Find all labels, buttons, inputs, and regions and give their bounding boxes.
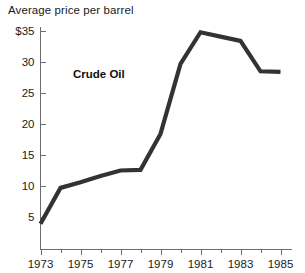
x-tick-label: 1979 [148, 258, 174, 270]
x-tick-label: 1983 [228, 258, 254, 270]
crude-oil-series-line [41, 32, 281, 224]
y-tick-label: 25 [22, 87, 35, 99]
plot-area: 51015202530$35 1973197519771979198119831… [0, 0, 305, 273]
series-annotation-crude-oil: Crude Oil [73, 68, 125, 80]
y-tick-label: $35 [15, 25, 34, 37]
x-tick-label: 1981 [188, 258, 214, 270]
crude-oil-line-chart: Average price per barrel 51015202530$35 … [0, 0, 305, 273]
y-tick-label: 20 [22, 118, 35, 130]
y-tick-label: 5 [28, 211, 34, 223]
x-tick-label: 1973 [28, 258, 54, 270]
y-tick-label: 10 [22, 180, 35, 192]
x-tick-label: 1975 [68, 258, 94, 270]
x-tick-label: 1977 [108, 258, 134, 270]
x-tick-group: 1973197519771979198119831985 [28, 250, 294, 271]
y-tick-label: 30 [22, 56, 35, 68]
x-tick-label: 1985 [268, 258, 294, 270]
y-tick-label: 15 [22, 149, 35, 161]
